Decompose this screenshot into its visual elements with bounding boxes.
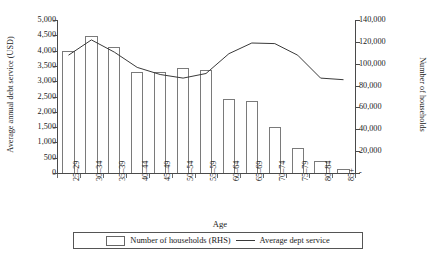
right-tick-mark (356, 20, 360, 21)
legend-swatch-debt-service (236, 240, 255, 241)
x-tick-label: 80–84 (324, 161, 333, 181)
right-tick-label: 80,000 (359, 81, 382, 89)
right-tick-mark (356, 173, 360, 174)
right-axis-title: Number of households (414, 14, 430, 174)
legend-swatch-households (106, 236, 125, 246)
x-tick-label: 30–34 (95, 161, 104, 181)
right-tick-mark (356, 42, 360, 43)
right-tick-label: 20,000 (359, 147, 382, 155)
x-tick-label: 50–54 (186, 161, 195, 181)
x-tick-label: 35–39 (118, 161, 127, 181)
right-axis-tick-labels: -20,00040,00060,00080,000100,000120,0001… (359, 0, 415, 200)
x-tick-label: 40–44 (141, 161, 150, 181)
x-axis-title: Age (0, 219, 440, 229)
right-tick-mark (356, 107, 360, 108)
x-tick-label: 60–64 (232, 161, 241, 181)
legend-label-households: Number of households (RHS) (130, 236, 230, 245)
right-tick-label: 120,000 (359, 38, 386, 46)
x-tick-mark (57, 174, 58, 178)
x-tick-label: 55–59 (209, 161, 218, 181)
right-tick-label: 60,000 (359, 103, 382, 111)
left-axis-tick-labels: 05001,0001,5002,0002,5003,0003,5004,0004… (16, 0, 56, 200)
x-tick-label: 45–49 (163, 161, 172, 181)
line-series (57, 20, 355, 173)
x-tick-label: 85+ (347, 168, 356, 181)
right-tick-label: 140,000 (359, 16, 386, 24)
x-tick-label: 25–29 (72, 161, 81, 181)
x-tick-label: 70–74 (278, 161, 287, 181)
right-tick-label: 100,000 (359, 60, 386, 68)
legend-label-debt-service: Average dept service (260, 236, 330, 245)
right-tick-mark (356, 151, 360, 152)
chart-legend: Number of households (RHS) Average dept … (73, 232, 363, 249)
right-tick-label: 40,000 (359, 125, 382, 133)
right-tick-mark (356, 129, 360, 130)
figure: Average annual debt service (USD) Number… (0, 0, 440, 267)
x-tick-label: 75–79 (301, 161, 310, 181)
right-tick-mark (356, 86, 360, 87)
x-tick-label: 65–69 (255, 161, 264, 181)
right-tick-mark (356, 64, 360, 65)
